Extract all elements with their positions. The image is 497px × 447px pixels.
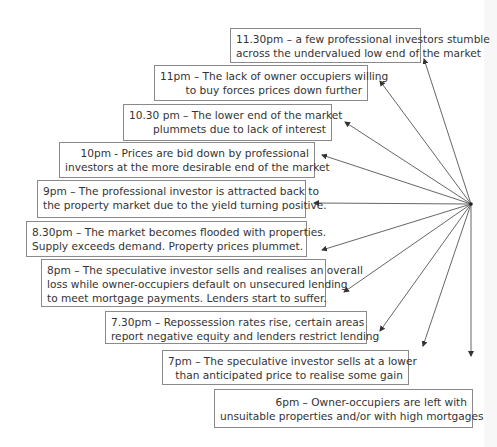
event-box-6pm: 6pm – Owner-occupiers are left with unsu…: [214, 389, 473, 428]
event-text: to meet mortgage payments. Lenders start…: [47, 291, 320, 305]
arrow-9pm: [314, 203, 471, 204]
event-text: 7.30pm – Repossession rates rise, certai…: [111, 315, 361, 329]
event-text: across the undervalued low end of the ma…: [236, 46, 415, 60]
arrow-11pm: [380, 81, 471, 204]
event-box-8pm: 8pm – The speculative investor sells and…: [41, 259, 326, 307]
event-box-7pm: 7pm – The speculative investor sells at …: [162, 350, 409, 385]
event-box-8-30pm: 8.30pm – The market becomes flooded with…: [26, 221, 307, 257]
event-text: loss while owner-occupiers default on un…: [47, 277, 320, 291]
event-box-7-30pm: 7.30pm – Repossession rates rise, certai…: [105, 311, 367, 344]
event-text: 7pm – The speculative investor sells at …: [168, 354, 403, 368]
event-text: 8.30pm – The market becomes flooded with…: [32, 225, 301, 239]
event-text: 10.30 pm – The lower end of the market: [129, 108, 326, 122]
arrow-8-30pm: [322, 204, 471, 250]
event-text: than anticipated price to realise some g…: [168, 368, 403, 382]
event-text: plummets due to lack of interest: [129, 122, 326, 136]
event-text: investors at the more desirable end of t…: [65, 160, 309, 174]
event-text: 10pm - Prices are bid down by profession…: [65, 146, 309, 160]
arrow-11-30pm: [424, 59, 471, 204]
arrow-7pm: [423, 204, 471, 346]
event-text: Supply exceeds demand. Property prices p…: [32, 239, 301, 253]
arrow-8pm: [344, 204, 471, 292]
arrow-10pm: [322, 155, 471, 204]
event-text: 8pm – The speculative investor sells and…: [47, 263, 320, 277]
event-text: 6pm – Owner-occupiers are left with: [220, 395, 467, 409]
event-text: 11.30pm – a few professional investors s…: [236, 32, 415, 46]
event-text: 9pm – The professional investor is attra…: [43, 184, 300, 198]
event-box-10pm: 10pm - Prices are bid down by profession…: [59, 142, 315, 178]
focal-point: [469, 202, 473, 206]
arrow-10-30pm: [345, 122, 471, 204]
event-box-10-30pm: 10.30 pm – The lower end of the market p…: [123, 104, 332, 141]
event-text: report negative equity and lenders restr…: [111, 329, 361, 343]
event-box-9pm: 9pm – The professional investor is attra…: [37, 180, 306, 218]
event-box-11-30pm: 11.30pm – a few professional investors s…: [230, 28, 421, 63]
event-text: to buy forces prices down further: [160, 83, 362, 97]
event-text: the property market due to the yield tur…: [43, 198, 300, 212]
event-text: unsuitable properties and/or with high m…: [220, 409, 467, 423]
event-text: 11pm – The lack of owner occupiers willi…: [160, 69, 362, 83]
arrow-7-30pm: [380, 204, 471, 331]
event-box-11pm: 11pm – The lack of owner occupiers willi…: [154, 65, 368, 101]
